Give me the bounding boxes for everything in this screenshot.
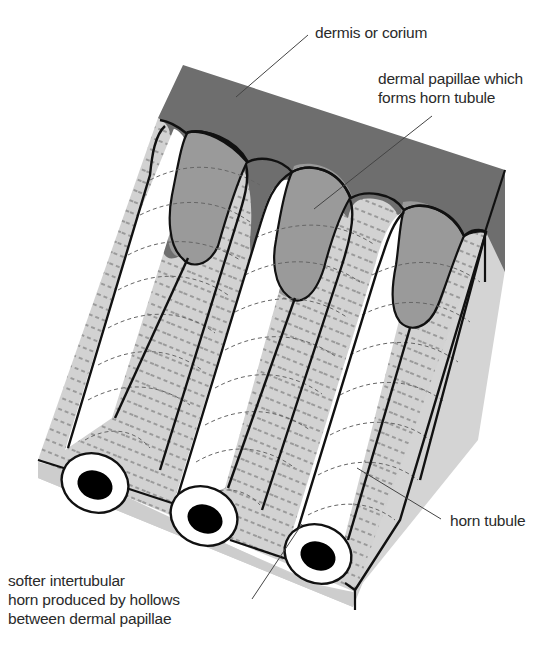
- leader-dermis: [236, 35, 308, 97]
- label-horn-tubule: horn tubule: [450, 511, 525, 530]
- label-dermal-papillae: dermal papillae which forms horn tubule: [378, 69, 523, 107]
- label-dermis-text: dermis or corium: [315, 23, 427, 42]
- label-intertubular-line-1: softer intertubular: [8, 571, 180, 590]
- label-dermis: dermis or corium: [315, 23, 427, 42]
- label-papillae-line-1: dermal papillae which: [378, 69, 523, 88]
- label-intertubular-line-3: between dermal papillae: [8, 609, 180, 628]
- label-papillae-line-2: forms horn tubule: [378, 88, 523, 107]
- label-horn-tubule-text: horn tubule: [450, 511, 525, 530]
- label-intertubular-horn: softer intertubular horn produced by hol…: [8, 571, 180, 628]
- label-intertubular-line-2: horn produced by hollows: [8, 590, 180, 609]
